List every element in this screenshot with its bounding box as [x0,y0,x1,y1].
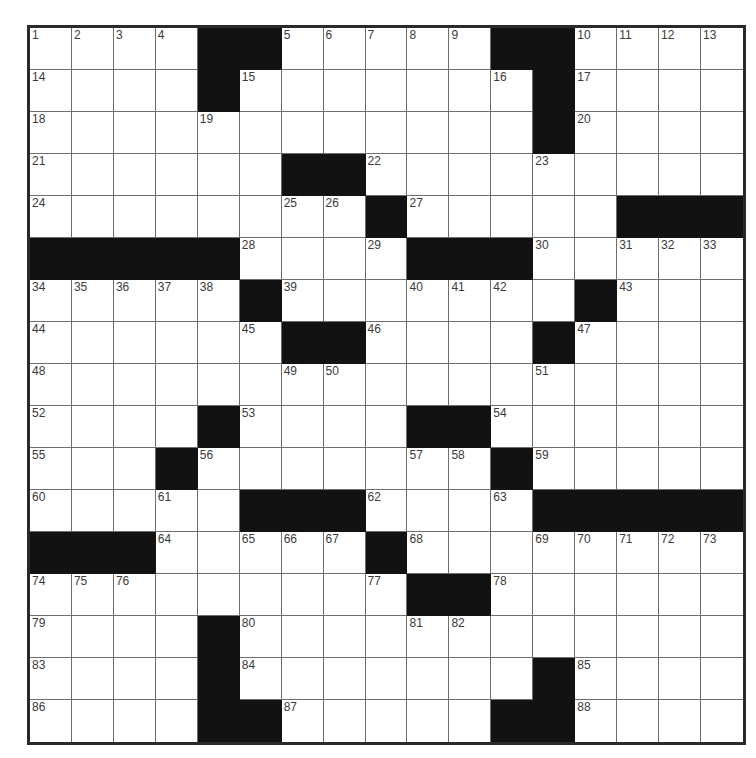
answer-cell[interactable]: 79 [30,616,72,658]
answer-cell[interactable]: 35 [72,280,114,322]
answer-cell[interactable] [491,322,533,364]
answer-cell[interactable]: 55 [30,448,72,490]
answer-cell[interactable]: 47 [575,322,617,364]
answer-cell[interactable] [659,322,701,364]
answer-cell[interactable]: 57 [407,448,449,490]
answer-cell[interactable] [198,364,240,406]
answer-cell[interactable] [617,406,659,448]
answer-cell[interactable]: 4 [156,28,198,70]
answer-cell[interactable] [366,448,408,490]
answer-cell[interactable] [324,658,366,700]
answer-cell[interactable] [575,448,617,490]
answer-cell[interactable] [198,532,240,574]
answer-cell[interactable] [72,616,114,658]
answer-cell[interactable] [240,196,282,238]
answer-cell[interactable]: 5 [282,28,324,70]
answer-cell[interactable] [701,448,743,490]
answer-cell[interactable]: 37 [156,280,198,322]
answer-cell[interactable] [72,196,114,238]
answer-cell[interactable]: 29 [366,238,408,280]
answer-cell[interactable] [198,322,240,364]
answer-cell[interactable]: 27 [407,196,449,238]
answer-cell[interactable]: 2 [72,28,114,70]
answer-cell[interactable] [449,490,491,532]
answer-cell[interactable] [449,196,491,238]
answer-cell[interactable] [72,364,114,406]
answer-cell[interactable] [114,112,156,154]
answer-cell[interactable] [491,658,533,700]
answer-cell[interactable]: 86 [30,700,72,742]
answer-cell[interactable] [156,322,198,364]
answer-cell[interactable]: 45 [240,322,282,364]
answer-cell[interactable] [659,700,701,742]
answer-cell[interactable]: 36 [114,280,156,322]
answer-cell[interactable] [114,616,156,658]
answer-cell[interactable] [72,70,114,112]
answer-cell[interactable] [575,238,617,280]
answer-cell[interactable]: 59 [533,448,575,490]
answer-cell[interactable]: 22 [366,154,408,196]
answer-cell[interactable]: 81 [407,616,449,658]
answer-cell[interactable] [701,574,743,616]
answer-cell[interactable] [324,700,366,742]
answer-cell[interactable] [324,112,366,154]
answer-cell[interactable]: 24 [30,196,72,238]
answer-cell[interactable]: 18 [30,112,72,154]
answer-cell[interactable] [617,616,659,658]
answer-cell[interactable]: 75 [72,574,114,616]
answer-cell[interactable] [575,196,617,238]
answer-cell[interactable] [491,532,533,574]
answer-cell[interactable] [617,700,659,742]
answer-cell[interactable]: 32 [659,238,701,280]
answer-cell[interactable] [324,238,366,280]
answer-cell[interactable] [659,406,701,448]
answer-cell[interactable]: 41 [449,280,491,322]
answer-cell[interactable] [324,574,366,616]
answer-cell[interactable]: 14 [30,70,72,112]
answer-cell[interactable] [366,658,408,700]
answer-cell[interactable] [659,658,701,700]
answer-cell[interactable] [324,406,366,448]
answer-cell[interactable]: 84 [240,658,282,700]
answer-cell[interactable] [282,616,324,658]
answer-cell[interactable] [701,70,743,112]
answer-cell[interactable]: 66 [282,532,324,574]
answer-cell[interactable] [449,364,491,406]
answer-cell[interactable] [575,154,617,196]
answer-cell[interactable] [533,574,575,616]
answer-cell[interactable]: 1 [30,28,72,70]
answer-cell[interactable] [324,70,366,112]
answer-cell[interactable] [282,70,324,112]
answer-cell[interactable] [701,658,743,700]
answer-cell[interactable]: 76 [114,574,156,616]
answer-cell[interactable] [198,574,240,616]
answer-cell[interactable] [617,112,659,154]
answer-cell[interactable] [407,364,449,406]
answer-cell[interactable]: 26 [324,196,366,238]
answer-cell[interactable]: 53 [240,406,282,448]
answer-cell[interactable]: 82 [449,616,491,658]
answer-cell[interactable] [449,322,491,364]
answer-cell[interactable] [114,154,156,196]
answer-cell[interactable]: 71 [617,532,659,574]
answer-cell[interactable] [659,574,701,616]
answer-cell[interactable] [72,154,114,196]
answer-cell[interactable] [240,448,282,490]
answer-cell[interactable] [617,70,659,112]
answer-cell[interactable] [617,448,659,490]
answer-cell[interactable] [659,616,701,658]
answer-cell[interactable]: 50 [324,364,366,406]
answer-cell[interactable] [156,616,198,658]
answer-cell[interactable]: 19 [198,112,240,154]
answer-cell[interactable] [324,280,366,322]
answer-cell[interactable] [198,490,240,532]
answer-cell[interactable] [114,322,156,364]
answer-cell[interactable]: 64 [156,532,198,574]
answer-cell[interactable] [198,196,240,238]
answer-cell[interactable]: 10 [575,28,617,70]
answer-cell[interactable] [114,70,156,112]
answer-cell[interactable] [366,112,408,154]
answer-cell[interactable]: 83 [30,658,72,700]
answer-cell[interactable]: 8 [407,28,449,70]
answer-cell[interactable] [407,490,449,532]
